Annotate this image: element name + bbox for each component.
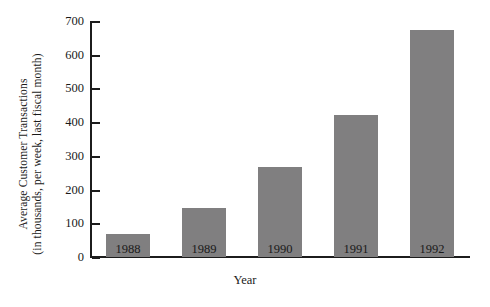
x-axis-title: Year bbox=[0, 274, 490, 287]
y-tick-label: 400 bbox=[65, 116, 84, 129]
y-tick-mark bbox=[92, 223, 100, 225]
y-tick-mark bbox=[92, 21, 100, 23]
y-tick-label: 500 bbox=[65, 82, 84, 95]
y-tick-mark bbox=[92, 190, 100, 192]
y-tick-label: 700 bbox=[65, 15, 84, 28]
x-category-label-1991: 1991 bbox=[344, 243, 369, 256]
x-category-label-1989: 1989 bbox=[192, 243, 217, 256]
y-tick-mark bbox=[92, 156, 100, 158]
y-tick-label: 200 bbox=[65, 183, 84, 196]
y-tick-label: 600 bbox=[65, 48, 84, 61]
x-category-label-1990: 1990 bbox=[268, 243, 293, 256]
y-tick-mark bbox=[92, 122, 100, 124]
bar-chart: Average Customer Transactions (in thousa… bbox=[0, 0, 490, 307]
y-tick-label: 300 bbox=[65, 149, 84, 162]
y-tick-mark bbox=[92, 55, 100, 57]
bar-1991 bbox=[334, 115, 378, 257]
y-tick-mark bbox=[92, 88, 100, 90]
y-axis-title: Average Customer Transactions (in thousa… bbox=[0, 0, 62, 307]
plot-area: 0100200300400500600700 bbox=[90, 21, 470, 257]
bar-1992 bbox=[410, 30, 454, 257]
y-axis-title-line2: (in thousands, per week, last fiscal mon… bbox=[31, 53, 45, 254]
y-tick-mark bbox=[92, 257, 100, 259]
y-tick-label: 0 bbox=[78, 251, 84, 264]
x-category-label-1992: 1992 bbox=[420, 243, 445, 256]
x-category-label-1988: 1988 bbox=[116, 243, 141, 256]
y-tick-label: 100 bbox=[65, 217, 84, 230]
y-axis-title-line1: Average Customer Transactions bbox=[17, 53, 31, 254]
